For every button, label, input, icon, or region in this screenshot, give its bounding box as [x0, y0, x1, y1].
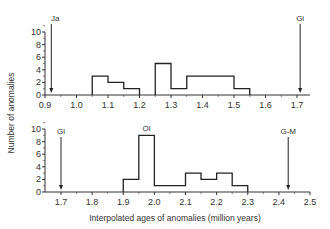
x-tick-label: 1.4 [196, 100, 209, 110]
histogram-bars [123, 135, 248, 192]
x-tick-label: 1.5 [228, 100, 241, 110]
annotation-label-ja: Ja [51, 14, 60, 23]
top-histogram-panel: 02468100.91.01.11.21.31.41.51.61.7JaGi [31, 14, 310, 110]
anomaly-histograms: 02468100.91.01.11.21.31.41.51.61.7JaGi 0… [0, 0, 330, 229]
y-tick-label: 6 [36, 149, 41, 159]
y-tick-label: 8 [36, 40, 41, 50]
y-tick-label: 2 [36, 77, 41, 87]
x-axis-title: Interpolated ages of anomalies (million … [89, 213, 261, 223]
x-tick-label: 1.8 [86, 197, 99, 207]
x-tick-label: 0.9 [39, 100, 52, 110]
y-tick-label: 2 [36, 174, 41, 184]
x-tick-label: 2.0 [148, 197, 161, 207]
histogram-bars [92, 64, 250, 96]
y-tick-label: 4 [36, 162, 41, 172]
y-tick-label: 10 [31, 124, 41, 134]
x-tick-label: 2.3 [241, 197, 254, 207]
x-tick-label: 1.7 [291, 100, 304, 110]
annotation-label-gi: Gi [57, 127, 65, 136]
x-tick-label: 2.2 [210, 197, 223, 207]
x-tick-label: 1.9 [117, 197, 130, 207]
x-tick-label: 1.6 [259, 100, 272, 110]
arrowhead-icon [286, 185, 290, 190]
x-tick-label: 2.5 [304, 197, 317, 207]
arrowhead-icon [298, 88, 302, 93]
x-tick-label: 1.3 [165, 100, 178, 110]
y-tick-label: 0 [36, 187, 41, 197]
y-axis-title: Number of anomalies [6, 73, 16, 154]
y-tick-label: 0 [36, 90, 41, 100]
y-tick-label: 4 [36, 65, 41, 75]
arrowhead-icon [59, 185, 63, 190]
y-tick-label: 10 [31, 27, 41, 37]
bottom-histogram-panel: 02468101.71.81.92.02.12.22.32.42.5GiOlG-… [31, 123, 316, 207]
x-tick-label: 1.7 [55, 197, 68, 207]
x-tick-label: 1.1 [102, 100, 115, 110]
x-tick-label: 1.0 [70, 100, 83, 110]
annotation-label-gi: Gi [296, 14, 304, 23]
y-tick-label: 6 [36, 52, 41, 62]
annotation-label-ol: Ol [143, 124, 151, 133]
x-tick-label: 1.2 [133, 100, 146, 110]
annotation-label-g-m: G-M [280, 127, 296, 136]
x-tick-label: 2.4 [273, 197, 286, 207]
arrowhead-icon [49, 88, 53, 93]
y-tick-label: 8 [36, 137, 41, 147]
x-tick-label: 2.1 [179, 197, 192, 207]
